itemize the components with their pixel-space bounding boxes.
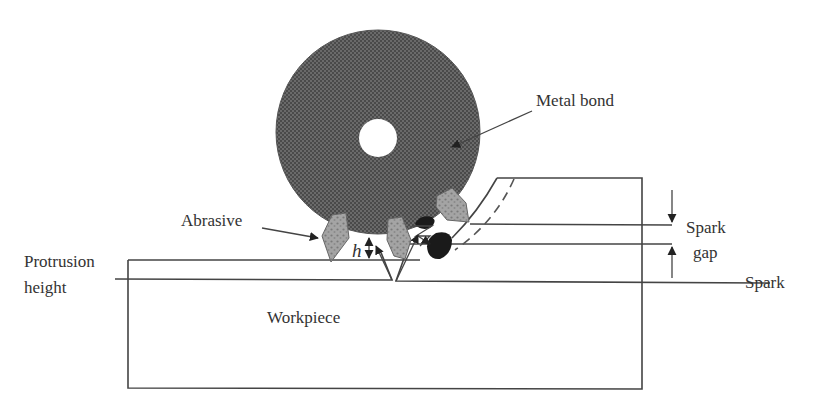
spark-blob-2 — [427, 232, 452, 259]
h-symbol: h — [352, 240, 362, 261]
wheel-hole — [359, 119, 397, 157]
abrasive-leader — [262, 228, 318, 238]
abrasive-label: Abrasive — [181, 211, 242, 230]
protrusion-label-line2: height — [24, 278, 67, 297]
metal-bond-label: Metal bond — [536, 91, 614, 110]
notch-leader-left — [376, 246, 392, 280]
protrusion-label-line1: Protrusion — [24, 252, 95, 271]
wheel-surface-level-line — [470, 224, 672, 225]
spark-gap-label-line1: Spark — [686, 218, 726, 237]
workpiece-label: Workpiece — [267, 308, 340, 327]
spark-label: Spark — [745, 273, 785, 292]
spark-gap-label-line2: gap — [693, 243, 718, 262]
edm-grinding-diagram: h Metal bond Abrasive Protrusion height … — [0, 0, 817, 409]
workpiece-surface-left — [115, 250, 392, 280]
